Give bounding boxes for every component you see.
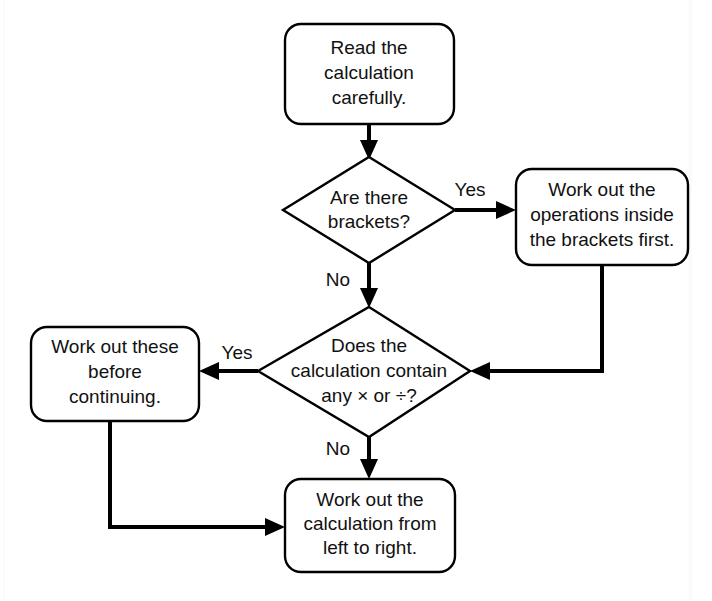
connector-muldiv-yes bbox=[199, 362, 258, 380]
node-muldiv-action-line-1: Work out these bbox=[51, 336, 178, 357]
connector-start-to-brackets bbox=[360, 124, 378, 160]
connector-muldiv-action-to-bottom bbox=[110, 421, 285, 536]
node-brackets-action-line-1: Work out the bbox=[548, 179, 655, 200]
connector-muldiv-no bbox=[360, 437, 378, 479]
connector-brackets-action-to-muldiv bbox=[470, 264, 602, 380]
node-left-to-right-line-3: left to right. bbox=[323, 537, 417, 558]
node-brackets-decision-line-2: brackets? bbox=[328, 211, 410, 232]
node-left-to-right-action[interactable]: Work out the calculation from left to ri… bbox=[285, 479, 455, 572]
edge-label-muldiv-yes: Yes bbox=[222, 342, 253, 363]
node-start-line-3: carefully. bbox=[332, 87, 407, 108]
node-brackets-decision[interactable]: Are there brackets? bbox=[283, 157, 455, 263]
node-muldiv-decision-line-1: Does the bbox=[331, 335, 407, 356]
node-left-to-right-line-2: calculation from bbox=[303, 513, 436, 534]
node-muldiv-action[interactable]: Work out these before continuing. bbox=[31, 327, 199, 421]
node-left-to-right-line-1: Work out the bbox=[316, 489, 423, 510]
node-start-line-2: calculation bbox=[324, 62, 414, 83]
node-muldiv-action-line-2: before bbox=[88, 361, 142, 382]
flowchart-canvas: Read the calculation carefully. Are ther… bbox=[0, 0, 712, 601]
node-brackets-action-line-3: the brackets first. bbox=[530, 229, 675, 250]
node-start[interactable]: Read the calculation carefully. bbox=[285, 24, 454, 124]
edge-label-muldiv-no: No bbox=[326, 438, 350, 459]
node-muldiv-action-line-3: continuing. bbox=[69, 386, 161, 407]
node-start-line-1: Read the bbox=[330, 37, 407, 58]
node-brackets-decision-line-1: Are there bbox=[330, 187, 408, 208]
edge-label-brackets-no: No bbox=[326, 269, 350, 290]
node-muldiv-decision[interactable]: Does the calculation contain any × or ÷? bbox=[258, 307, 470, 437]
node-brackets-action-line-2: operations inside bbox=[530, 204, 674, 225]
flowchart-svg: Read the calculation carefully. Are ther… bbox=[0, 0, 712, 601]
connector-brackets-yes bbox=[455, 201, 516, 219]
node-brackets-action[interactable]: Work out the operations inside the brack… bbox=[516, 169, 688, 265]
edge-label-brackets-yes: Yes bbox=[455, 179, 486, 200]
node-muldiv-decision-line-3: any × or ÷? bbox=[321, 385, 416, 406]
connector-brackets-no bbox=[360, 263, 378, 308]
node-muldiv-decision-line-2: calculation contain bbox=[291, 360, 447, 381]
